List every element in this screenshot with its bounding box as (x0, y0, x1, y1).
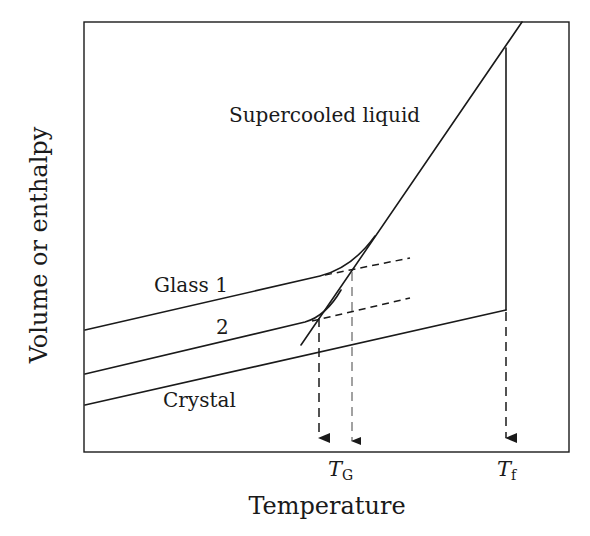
tf-tick-label: Tf (497, 457, 518, 483)
x-axis-label: Temperature (248, 492, 405, 520)
plot-frame (84, 22, 569, 452)
glass-transition-diagram: Supercooled liquid Glass 1 2 Crystal TG … (0, 0, 590, 536)
glass-2-curve (85, 290, 341, 374)
glass-1-extrapolation (325, 258, 410, 275)
supercooled-liquid-line (301, 22, 522, 345)
y-axis-label: Volume or enthalpy (25, 126, 53, 364)
glass-1-curve (85, 236, 375, 330)
supercooled-liquid-label: Supercooled liquid (229, 103, 420, 127)
glass-2-label: 2 (216, 315, 229, 339)
tg-sub: G (342, 467, 353, 483)
crystal-label: Crystal (163, 388, 236, 412)
glass-1-label: Glass 1 (154, 273, 228, 297)
tf-sub: f (511, 467, 518, 483)
tg-tick-label: TG (328, 457, 353, 483)
